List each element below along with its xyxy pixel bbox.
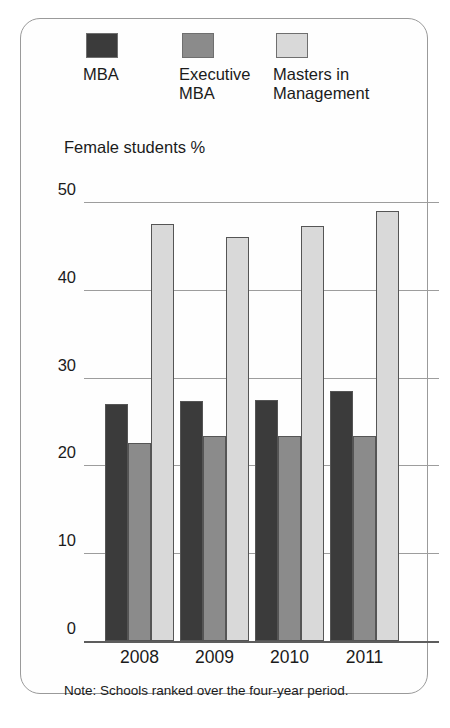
bar-executive-mba-2008 <box>128 443 151 641</box>
x-axis-labels: 2008200920102011 <box>84 647 439 675</box>
legend-swatch-mba <box>86 33 118 58</box>
bar-mba-2009 <box>180 401 203 641</box>
bar-masters-in-management-2008 <box>151 224 174 641</box>
bar-mba-2010 <box>255 400 278 641</box>
y-tick-label-20: 20 <box>58 443 76 465</box>
y-tick-label-10: 10 <box>58 531 76 553</box>
bar-mba-2008 <box>105 404 128 641</box>
legend-swatch-masters-in-management <box>276 33 308 58</box>
x-tick-label-2009: 2009 <box>172 647 257 668</box>
chart-card: MBA Executive MBA Masters in Management … <box>20 18 428 694</box>
legend-item-executive-mba: Executive MBA <box>179 33 273 103</box>
chart-legend: MBA Executive MBA Masters in Management <box>83 33 413 113</box>
legend-label-mba: MBA <box>83 65 175 84</box>
y-tick-label-30: 30 <box>58 356 76 378</box>
legend-swatch-executive-mba <box>182 33 214 58</box>
legend-item-mba: MBA <box>83 33 175 84</box>
y-axis-title: Female students % <box>64 138 205 157</box>
y-tick-label-40: 40 <box>58 268 76 290</box>
y-tick-label-50: 50 <box>58 180 76 202</box>
plot-area: 01020304050 <box>84 202 439 641</box>
axis-baseline: 0 <box>84 641 439 643</box>
bar-masters-in-management-2010 <box>301 226 324 641</box>
x-tick-label-2008: 2008 <box>97 647 182 668</box>
y-tick-label-0: 0 <box>67 619 76 641</box>
bar-masters-in-management-2009 <box>226 237 249 641</box>
gridline-50: 50 <box>84 202 439 203</box>
bar-executive-mba-2009 <box>203 436 226 641</box>
bar-mba-2011 <box>330 391 353 641</box>
x-tick-label-2010: 2010 <box>247 647 332 668</box>
bar-masters-in-management-2011 <box>376 211 399 641</box>
legend-label-masters-in-management: Masters in Management <box>273 65 413 103</box>
x-tick-label-2011: 2011 <box>322 647 407 668</box>
chart-note: Note: Schools ranked over the four-year … <box>64 683 348 698</box>
bar-executive-mba-2010 <box>278 436 301 641</box>
bar-executive-mba-2011 <box>353 436 376 641</box>
legend-label-executive-mba: Executive MBA <box>179 65 273 103</box>
legend-item-masters-in-management: Masters in Management <box>273 33 413 103</box>
